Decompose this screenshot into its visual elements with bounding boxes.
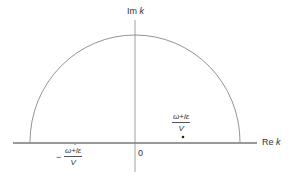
fraction-bar: [172, 122, 190, 123]
pole-numerator: ω+iε: [172, 112, 190, 121]
axis-label-var: k: [140, 6, 145, 16]
pole-numerator: ω+iε: [64, 146, 82, 155]
pole-label-positive: ω+iε V: [172, 112, 190, 133]
real-axis-label: Re k: [262, 137, 281, 147]
pole-marker-small: [74, 144, 75, 145]
contour-diagram: [0, 0, 292, 184]
pole-sign-negative: −: [56, 152, 61, 162]
axis-label-prefix: Re: [262, 137, 274, 147]
pole-denominator: V: [64, 158, 82, 167]
axis-label-prefix: Im: [127, 6, 137, 16]
pole-denominator: V: [172, 124, 190, 133]
pole-marker: [182, 136, 185, 139]
imaginary-axis-label: Im k: [127, 6, 144, 16]
axis-label-var: k: [276, 137, 281, 147]
origin-label: 0: [138, 148, 143, 158]
pole-label-negative: ω+iε V: [64, 146, 82, 167]
fraction-bar: [64, 156, 82, 157]
